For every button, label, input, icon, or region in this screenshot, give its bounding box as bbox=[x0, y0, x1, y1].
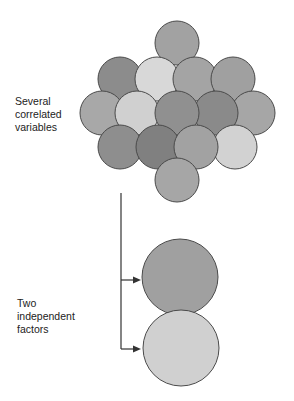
correlated-variables-cluster bbox=[80, 21, 275, 202]
label-line: Several bbox=[15, 95, 62, 108]
arrowhead-icon bbox=[133, 346, 141, 353]
factor-circle bbox=[142, 239, 218, 315]
variable-circle bbox=[213, 125, 257, 169]
variable-circle bbox=[155, 158, 199, 202]
arrowhead-icon bbox=[133, 277, 141, 284]
variable-circle bbox=[98, 125, 142, 169]
label-line: factors bbox=[17, 323, 75, 336]
label-line: independent bbox=[17, 310, 75, 323]
label-line: correlated bbox=[15, 108, 62, 121]
factor-circle bbox=[143, 310, 219, 386]
independent-factors-label: Two independent factors bbox=[17, 297, 75, 336]
label-line: variables bbox=[15, 121, 62, 134]
correlated-variables-label: Several correlated variables bbox=[15, 95, 62, 134]
label-line: Two bbox=[17, 297, 75, 310]
independent-factors-group bbox=[142, 239, 219, 386]
arrow-connector bbox=[121, 193, 141, 353]
diagram-canvas bbox=[0, 0, 294, 401]
